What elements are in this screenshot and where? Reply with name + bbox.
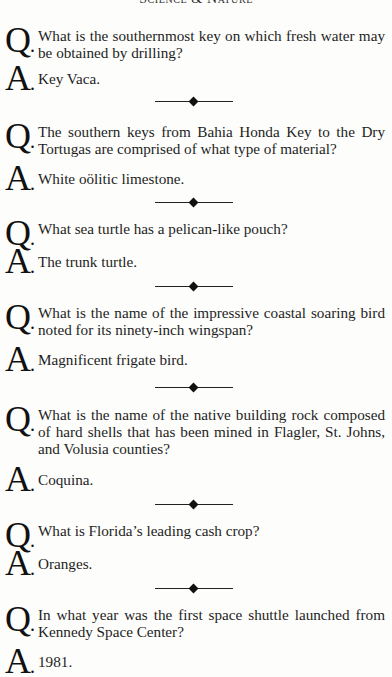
- answer-text: Magnificent frigate bird.: [38, 351, 385, 368]
- answer-marker: A.: [5, 461, 35, 502]
- question-text: What is Florida’s leading cash crop?: [38, 522, 385, 539]
- section-divider: [155, 500, 233, 510]
- diamond-ornament-icon: [189, 97, 199, 107]
- answer-marker: A.: [5, 545, 35, 586]
- question-marker: Q.: [5, 22, 35, 63]
- section-divider: [155, 383, 233, 393]
- question-text: What is the southernmost key on which fr…: [38, 27, 385, 61]
- diamond-ornament-icon: [189, 383, 199, 393]
- question-marker: Q.: [5, 601, 35, 642]
- answer-marker: A.: [5, 60, 35, 101]
- question-text: What is the name of the native building …: [38, 406, 385, 457]
- question-text: What sea turtle has a pelican-like pouch…: [38, 220, 385, 237]
- question-text: In what year was the first space shuttle…: [38, 606, 385, 640]
- running-header: Science & Nature: [0, 0, 392, 7]
- answer-marker: A.: [5, 243, 35, 284]
- question-text: What is the name of the impressive coast…: [38, 304, 385, 338]
- question-marker: Q.: [5, 401, 35, 442]
- section-divider: [155, 282, 233, 292]
- question-marker: Q.: [5, 118, 35, 159]
- diamond-ornament-icon: [189, 500, 199, 510]
- question-marker: Q.: [5, 299, 35, 340]
- answer-text: The trunk turtle.: [38, 253, 385, 270]
- answer-marker: A.: [5, 341, 35, 382]
- answer-marker: A.: [5, 643, 35, 677]
- answer-text: Oranges.: [38, 555, 385, 572]
- section-divider: [155, 198, 233, 208]
- answer-text: White oölitic limestone.: [38, 170, 385, 187]
- section-divider: [155, 97, 233, 107]
- answer-text: Key Vaca.: [38, 70, 385, 87]
- diamond-ornament-icon: [189, 198, 199, 208]
- answer-text: Coquina.: [38, 471, 385, 488]
- diamond-ornament-icon: [189, 584, 199, 594]
- answer-text: 1981.: [38, 653, 385, 670]
- question-text: The southern keys from Bahia Honda Key t…: [38, 123, 385, 157]
- diamond-ornament-icon: [189, 282, 199, 292]
- answer-marker: A.: [5, 160, 35, 201]
- section-divider: [155, 584, 233, 594]
